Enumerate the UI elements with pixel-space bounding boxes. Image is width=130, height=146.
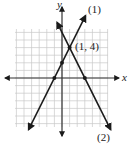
line1-label: (1) xyxy=(88,3,101,16)
data-point xyxy=(68,46,72,50)
x-axis-label: x xyxy=(121,71,127,83)
graph-canvas: x y (1) (2) (1, 4) xyxy=(0,0,130,146)
data-point xyxy=(60,61,64,65)
y-axis-label: y xyxy=(56,0,62,10)
data-point xyxy=(83,76,87,80)
line2-label: (2) xyxy=(97,131,110,144)
data-point xyxy=(52,76,56,80)
line-2 xyxy=(57,23,111,130)
intersection-label: (1, 4) xyxy=(75,40,99,53)
